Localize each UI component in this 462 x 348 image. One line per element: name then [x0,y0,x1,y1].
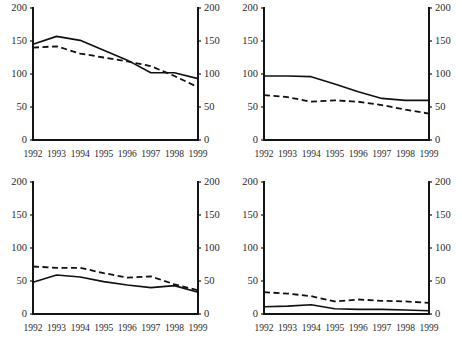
y-tick-label-right: 200 [435,3,461,13]
y-tick-label-right: 100 [204,243,230,253]
series-line-solid [33,36,198,78]
y-tick-label-right: 0 [204,135,230,145]
y-tick-label-left: 150 [232,210,258,220]
x-tick-label-1993: 1993 [275,149,301,159]
y-tick-label-left: 150 [1,210,27,220]
series-line-dashed [264,292,429,303]
plot-area-bottom-left [0,174,231,348]
x-tick-label-1995: 1995 [322,323,348,333]
x-tick-label-1996: 1996 [114,323,140,333]
x-tick-label-1997: 1997 [369,323,395,333]
x-tick-label-1996: 1996 [114,149,140,159]
y-tick-label-right: 50 [435,102,461,112]
y-tick-label-right: 100 [204,69,230,79]
y-tick-label-right: 50 [435,276,461,286]
plot-area-top-left [0,0,231,174]
x-tick-label-1992: 1992 [20,149,46,159]
x-tick-label-1992: 1992 [251,323,277,333]
x-tick-label-1999: 1999 [185,149,211,159]
y-tick-label-right: 200 [435,177,461,187]
y-tick-label-left: 200 [232,3,258,13]
x-tick-label-1993: 1993 [44,149,70,159]
y-tick-label-right: 100 [435,69,461,79]
y-tick-label-right: 150 [435,36,461,46]
x-tick-label-1998: 1998 [392,149,418,159]
y-tick-label-left: 0 [232,135,258,145]
x-tick-label-1994: 1994 [298,323,324,333]
figure-small-multiples-grid: 0050501001001501502002001992199319941995… [0,0,462,348]
y-tick-label-right: 50 [204,276,230,286]
y-tick-label-left: 100 [232,243,258,253]
x-tick-label-1992: 1992 [20,323,46,333]
x-tick-label-1994: 1994 [298,149,324,159]
x-tick-label-1995: 1995 [91,323,117,333]
y-tick-label-right: 200 [204,177,230,187]
x-tick-label-1993: 1993 [44,323,70,333]
series-line-dashed [264,95,429,113]
x-tick-label-1996: 1996 [345,149,371,159]
x-tick-label-1992: 1992 [251,149,277,159]
y-tick-label-right: 200 [204,3,230,13]
x-tick-label-1998: 1998 [161,149,187,159]
x-tick-label-1996: 1996 [345,323,371,333]
y-tick-label-right: 100 [435,243,461,253]
y-tick-label-left: 50 [232,102,258,112]
y-tick-label-left: 200 [1,177,27,187]
x-tick-label-1993: 1993 [275,323,301,333]
y-tick-label-left: 50 [1,102,27,112]
y-tick-label-left: 50 [1,276,27,286]
chart-panel-bottom-right: 0050501001001501502002001992199319941995… [231,174,462,348]
y-tick-label-right: 150 [204,210,230,220]
plot-area-bottom-right [231,174,462,348]
y-tick-label-right: 0 [435,135,461,145]
plot-area-top-right [231,0,462,174]
y-tick-label-left: 100 [1,69,27,79]
y-tick-label-left: 50 [232,276,258,286]
x-tick-label-1994: 1994 [67,323,93,333]
y-tick-label-left: 200 [1,3,27,13]
y-tick-label-left: 100 [232,69,258,79]
y-tick-label-right: 0 [204,309,230,319]
series-line-dashed [33,266,198,290]
y-tick-label-right: 0 [435,309,461,319]
x-tick-label-1994: 1994 [67,149,93,159]
y-tick-label-left: 100 [1,243,27,253]
x-tick-label-1995: 1995 [322,149,348,159]
series-line-solid [264,305,429,311]
x-tick-label-1995: 1995 [91,149,117,159]
x-tick-label-1999: 1999 [416,323,442,333]
x-tick-label-1999: 1999 [185,323,211,333]
y-tick-label-left: 150 [232,36,258,46]
x-tick-label-1998: 1998 [161,323,187,333]
y-tick-label-left: 0 [1,135,27,145]
y-tick-label-right: 150 [204,36,230,46]
x-tick-label-1997: 1997 [138,323,164,333]
y-tick-label-right: 150 [435,210,461,220]
y-tick-label-left: 0 [232,309,258,319]
chart-panel-bottom-left: 0050501001001501502002001992199319941995… [0,174,231,348]
x-tick-label-1999: 1999 [416,149,442,159]
chart-panel-top-right: 0050501001001501502002001992199319941995… [231,0,462,174]
x-tick-label-1997: 1997 [138,149,164,159]
series-line-dashed [33,46,198,87]
x-tick-label-1998: 1998 [392,323,418,333]
y-tick-label-left: 0 [1,309,27,319]
y-tick-label-left: 150 [1,36,27,46]
x-tick-label-1997: 1997 [369,149,395,159]
y-tick-label-left: 200 [232,177,258,187]
y-tick-label-right: 50 [204,102,230,112]
chart-panel-top-left: 0050501001001501502002001992199319941995… [0,0,231,174]
